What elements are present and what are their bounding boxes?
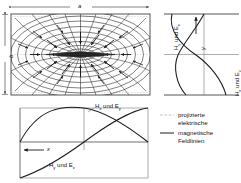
legend-entry-magnetic-line1: magnetische <box>178 129 213 137</box>
field-line-group <box>5 12 157 98</box>
figure-canvas <box>0 0 241 183</box>
label-e-sub: x <box>73 165 75 170</box>
label-und: und <box>234 76 240 89</box>
label-e: E <box>173 26 179 30</box>
legend-lines <box>160 115 174 133</box>
legend-entry-magnetic-line2: Feldlinien <box>178 137 204 145</box>
bottom-panel-top-curve-label: Hx und Ey <box>95 103 121 111</box>
legend-entry-electric-line1: projizierte <box>178 111 205 119</box>
bottom-panel-axis-label-x: x <box>47 146 50 152</box>
waveguide-field-figure: a b Hy und Ex Hx und Ey y Hx und Ey Hy u… <box>0 0 241 183</box>
label-e: E <box>234 72 240 76</box>
right-panel-axis-label-y: y <box>200 47 206 50</box>
label-und: und <box>101 103 114 109</box>
right-panel-right-curve-label: Hx und Ey <box>234 70 241 96</box>
legend-entry-electric-line2: elektrische <box>178 119 208 127</box>
dimension-label-a: a <box>78 3 81 9</box>
label-e-sub: y <box>237 70 241 72</box>
label-e-sub: y <box>119 106 121 111</box>
right-panel-left-curve-label: Hy und Ex <box>173 24 181 50</box>
label-h: H <box>173 46 179 50</box>
label-h: H <box>234 92 240 96</box>
dimension-label-b: b <box>8 55 14 58</box>
label-e-sub: x <box>176 24 181 26</box>
label-und: und <box>55 162 68 168</box>
bottom-panel-bottom-curve-label: Hy und Ex <box>49 162 75 170</box>
bottom-panel-plot <box>20 107 148 178</box>
label-und: und <box>173 30 179 43</box>
